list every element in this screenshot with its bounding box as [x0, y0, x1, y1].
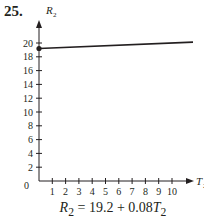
y-tick-label: 4	[28, 148, 33, 159]
x-tick-label: 8	[143, 186, 148, 197]
y-tick-label: 18	[23, 51, 33, 62]
x-tick-label: 7	[130, 186, 135, 197]
y-tick-label: 6	[28, 134, 33, 145]
x-axis-label-sub: 2	[203, 182, 204, 190]
equation-rhs-var: T	[153, 200, 161, 215]
equation-rhs-sub: 2	[161, 206, 167, 219]
x-tick-label: 6	[116, 186, 121, 197]
y-tick-label: 14	[23, 79, 33, 90]
x-tick-label: 9	[156, 186, 161, 197]
equation-lhs: R	[60, 200, 69, 215]
y-tick-label: 2	[28, 162, 33, 173]
x-tick-label: 5	[103, 186, 108, 197]
y-tick-label: 16	[23, 65, 33, 76]
x-tick-label: 3	[76, 186, 81, 197]
equation-lhs-sub: 2	[68, 206, 74, 219]
y-axis-arrow-icon	[36, 20, 42, 28]
start-point-dot	[36, 46, 41, 51]
origin-label: 0	[24, 180, 29, 191]
equation-rhs: = 19.2 + 0.08	[77, 200, 152, 215]
x-tick-label: 1	[50, 186, 55, 197]
x-tick-label: 10	[167, 186, 177, 197]
y-tick-label: 12	[23, 93, 33, 104]
data-line	[39, 42, 193, 48]
line-chart: 1234567891024681012141618200R2T2	[0, 0, 204, 221]
equation: R2 = 19.2 + 0.08T2	[0, 200, 204, 219]
x-tick-label: 4	[90, 186, 95, 197]
y-axis-label-sub: 2	[53, 11, 57, 19]
x-axis-arrow-icon	[186, 178, 194, 184]
y-tick-label: 20	[23, 38, 33, 49]
y-tick-label: 10	[23, 107, 33, 118]
x-axis-label: T	[196, 175, 203, 187]
x-tick-label: 2	[63, 186, 68, 197]
y-tick-label: 8	[28, 120, 33, 131]
y-axis-label: R	[45, 4, 53, 16]
